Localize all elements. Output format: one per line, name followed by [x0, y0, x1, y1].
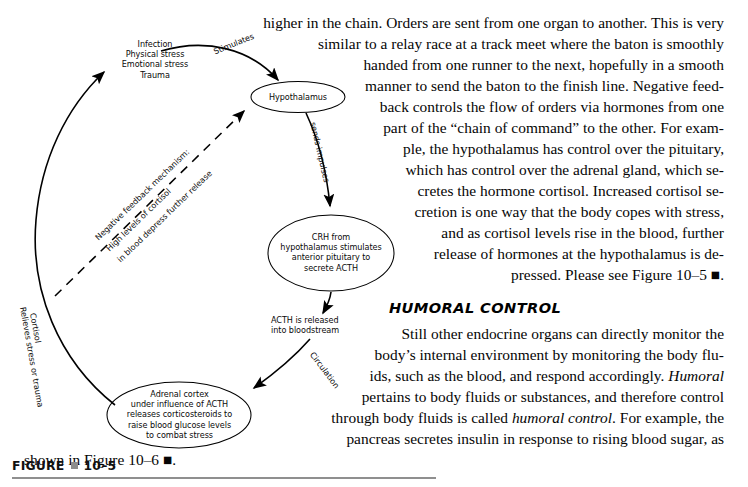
body-line: manner to send the baton to the finish l…: [365, 77, 724, 95]
body-line-italic-humoral: ids, such as the blood, and respond acco…: [370, 367, 725, 385]
node-acth-released-label: ACTH is released into bloodstream: [271, 315, 391, 335]
body-line: similar to a relay race at a track meet …: [318, 35, 724, 53]
body-line: cretion is one way that the body copes w…: [414, 203, 724, 221]
body-line: body’s internal environment by monitorin…: [375, 346, 724, 364]
body-line-italic-humoral-control: through body fluids is called humoral co…: [331, 409, 724, 427]
textbook-page: Infection Physical stress Emotional stre…: [0, 0, 748, 487]
body-line: part of the “chain of command” to the ot…: [383, 119, 724, 137]
figure-caption: FIGURE 10–5: [12, 458, 116, 473]
body-line: Still other endocrine organs can directl…: [401, 325, 724, 343]
figure-diagram: Infection Physical stress Emotional stre…: [0, 0, 400, 455]
body-line: pancreas secretes insulin in response to…: [346, 430, 724, 448]
body-line: pressed. Please see Figure 10–5 ■.: [511, 266, 724, 284]
node-adrenal-label: Adrenal cortex under influence of ACTH r…: [107, 389, 252, 440]
body-line: higher in the chain. Orders are sent fro…: [263, 14, 724, 32]
node-crh-label: CRH from hypothalamus stimulates anterio…: [268, 232, 394, 273]
body-line: pertains to body fluids or substances, a…: [362, 388, 724, 406]
square-bullet-icon: [71, 462, 78, 469]
body-line: which has control over the adrenal gland…: [405, 161, 724, 179]
body-line: back controls the flow of orders via hor…: [380, 98, 724, 116]
arrow-crh-to-acth: [323, 292, 331, 313]
figure-caption-label: FIGURE: [12, 458, 65, 473]
caption-divider: [12, 477, 436, 479]
body-line: release of hormones at the hypothalamus …: [434, 245, 724, 263]
arrow-circulation: [254, 339, 310, 388]
body-line: cretes the hormone cortisol. Increased c…: [417, 182, 724, 200]
body-line: ple, the hypothalamus has control over t…: [403, 140, 724, 158]
figure-caption-number: 10–5: [84, 458, 117, 473]
section-heading: HUMORAL CONTROL: [389, 299, 724, 316]
body-line: and as cortisol levels rise in the blood…: [441, 224, 724, 242]
node-hypothalamus-label: Hypothalamus: [253, 92, 343, 102]
node-stimuli-label: Infection Physical stress Emotional stre…: [100, 39, 210, 80]
body-line: handed from one runner to the next, hope…: [363, 56, 724, 74]
